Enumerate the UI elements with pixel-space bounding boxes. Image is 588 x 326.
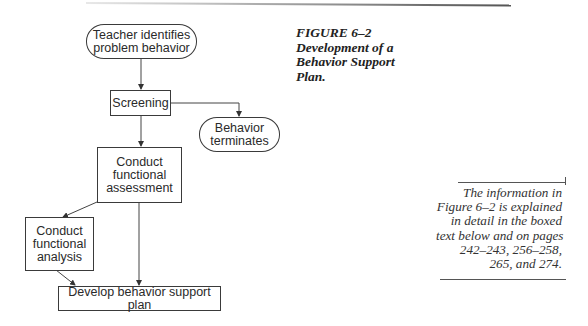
node-functional-assessment: Conduct functional assessment <box>97 147 182 203</box>
node-line: Behavior <box>210 122 268 135</box>
caption-line: Plan. <box>296 70 395 85</box>
node-line: analysis <box>33 251 87 264</box>
node-line: Conduct <box>106 156 173 169</box>
node-line: Conduct <box>33 225 87 238</box>
edge-screening-terminates <box>170 103 239 116</box>
node-line: functional <box>106 169 173 182</box>
figure-caption: FIGURE 6–2 Development of a Behavior Sup… <box>296 26 395 84</box>
note-bottom-rule <box>440 279 566 280</box>
note-rule-tick <box>565 177 566 185</box>
note-line: text below and on pages <box>436 229 562 243</box>
node-line: terminates <box>210 135 268 148</box>
note-line: in detail in the boxed <box>436 214 562 228</box>
edge-analysis-plan <box>56 270 75 285</box>
node-line: Develop behavior support plan <box>59 286 220 312</box>
node-line: problem behavior <box>93 42 190 55</box>
node-functional-analysis: Conduct functional analysis <box>25 217 94 271</box>
caption-line: FIGURE 6–2 <box>296 26 395 41</box>
edge-assessment-analysis <box>63 202 97 217</box>
node-line: Screening <box>112 97 168 110</box>
node-line: assessment <box>106 182 173 195</box>
note-top-rule <box>458 182 565 183</box>
node-line: functional <box>33 238 87 251</box>
note-line: The information in <box>436 186 562 200</box>
node-develop-plan: Develop behavior support plan <box>58 286 221 311</box>
note-line: 265, and 274. <box>436 257 562 271</box>
caption-line: Behavior Support <box>296 55 395 70</box>
note-line: Figure 6–2 is explained <box>436 200 562 214</box>
side-note: The information in Figure 6–2 is explain… <box>436 186 562 271</box>
node-line: Teacher identifies <box>93 29 190 42</box>
node-behavior-terminates: Behavior terminates <box>199 117 280 152</box>
caption-line: Development of a <box>296 41 395 56</box>
node-screening: Screening <box>110 90 171 116</box>
node-teacher-identifies: Teacher identifies problem behavior <box>86 24 197 59</box>
note-line: 242–243, 256–258, <box>436 243 562 257</box>
